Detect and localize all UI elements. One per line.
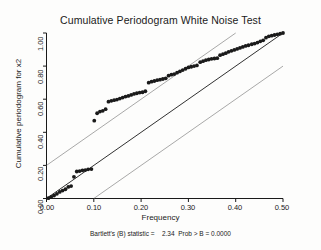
data-point <box>69 184 73 188</box>
data-point <box>164 76 168 80</box>
data-point <box>261 38 265 42</box>
data-point <box>90 167 94 171</box>
upper-confidence-band <box>47 33 236 165</box>
bartlett-label: Bartlett's (B) statistic = <box>90 230 155 237</box>
cumulative-periodogram-chart: Cumulative Periodogram White Noise Test … <box>0 0 321 250</box>
y-axis-ticks <box>43 33 47 199</box>
plot-area <box>0 0 321 250</box>
data-point <box>143 89 147 93</box>
data-point <box>281 31 285 35</box>
data-point <box>92 119 96 123</box>
bartlett-value: 2.34 <box>162 230 175 237</box>
prob-label: Prob > B = <box>178 230 209 237</box>
data-point <box>215 56 219 60</box>
bartlett-statistic-note: Bartlett's (B) statistic = 2.34 Prob > B… <box>0 230 321 237</box>
data-point <box>104 107 108 111</box>
reference-lines <box>47 33 284 199</box>
data-point <box>247 43 251 47</box>
data-point <box>72 175 76 179</box>
prob-value: 0.0000 <box>211 230 231 237</box>
x-axis-ticks <box>47 199 284 203</box>
data-point <box>195 64 199 68</box>
lower-confidence-band <box>94 66 283 198</box>
diagonal-reference-line <box>47 33 284 199</box>
data-point <box>86 167 90 171</box>
spacer-1 <box>155 230 162 237</box>
